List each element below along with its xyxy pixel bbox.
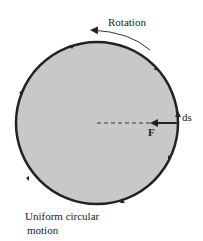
caption-line-2: motion bbox=[27, 224, 59, 236]
caption-line-1: Uniform circular bbox=[25, 210, 100, 222]
displacement-label: ds bbox=[182, 111, 192, 123]
force-label: F bbox=[148, 126, 155, 138]
rotation-label: Rotation bbox=[108, 16, 146, 28]
uniform-circular-motion-diagram: Rotation F ds Uniform circular motion bbox=[0, 0, 203, 241]
